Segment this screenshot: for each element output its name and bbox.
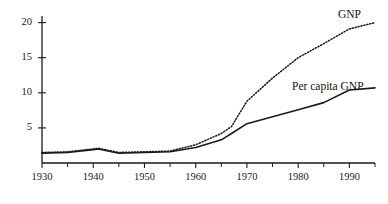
y-tick-label: 15 [10, 51, 32, 62]
gnp-chart: 5101520 1930194019501960197019801990 GNP… [0, 0, 388, 204]
y-tick-label: 10 [10, 86, 32, 97]
x-tick-marks [42, 163, 375, 168]
y-tick-label: 20 [10, 16, 32, 27]
x-tick-label: 1940 [73, 171, 113, 182]
x-tick-label: 1970 [227, 171, 267, 182]
x-tick-label: 1980 [278, 171, 318, 182]
x-tick-label: 1990 [329, 171, 369, 182]
series-label-per-capita-gnp: Per capita GNP [292, 80, 364, 92]
series-line-per-capita-gnp [42, 88, 375, 153]
series-label-gnp: GNP [338, 8, 361, 20]
x-tick-label: 1960 [176, 171, 216, 182]
x-tick-label: 1930 [22, 171, 62, 182]
y-tick-label: 5 [10, 121, 32, 132]
x-tick-label: 1950 [124, 171, 164, 182]
